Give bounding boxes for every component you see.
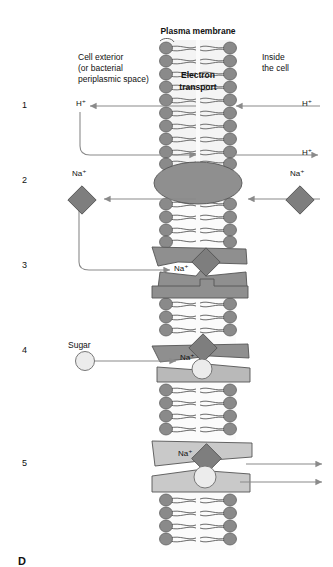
- sodium-label-step3: Na⁺: [174, 264, 188, 273]
- page-title: Plasma membrane: [160, 26, 236, 37]
- proton-label-interior: H⁺: [302, 99, 312, 108]
- exterior-label-line3: periplasmic space): [78, 74, 149, 85]
- proton-label-exterior: H⁺: [76, 99, 86, 108]
- sodium-proton-antiporter: [154, 162, 242, 204]
- sodium-diamond-exterior-step2: [68, 186, 96, 214]
- electron-transport-label-line2: transport: [160, 82, 236, 93]
- bilayer-segment-fourth: [160, 382, 237, 440]
- proton-label-exit: H⁺: [302, 148, 312, 157]
- interior-label-line1: Inside: [262, 52, 285, 63]
- sodium-diamond-interior-step2: [286, 186, 314, 214]
- step-number-3: 3: [22, 260, 27, 270]
- sugar-label: Sugar: [68, 340, 91, 351]
- sodium-label-interior: Na⁺: [290, 169, 304, 178]
- sodium-label-step5: Na⁺: [178, 449, 192, 458]
- exterior-label-line1: Cell exterior: [78, 52, 123, 63]
- sodium-label-step4: Na⁺: [180, 353, 194, 362]
- panel-letter-label: D: [18, 556, 26, 567]
- electron-transport-label-line1: Electron: [160, 70, 236, 81]
- sugar-circle-exterior: [76, 352, 95, 371]
- bilayer-segment-upper: [160, 38, 237, 170]
- step-number-4: 4: [22, 345, 27, 355]
- step-number-5: 5: [22, 458, 27, 468]
- sugar-circle-step5: [194, 466, 216, 488]
- step-number-1: 1: [22, 100, 27, 110]
- bilayer-segment-bottom: [160, 492, 237, 550]
- sugar-circle-step4: [192, 359, 212, 379]
- interior-label-line2: the cell: [262, 63, 289, 74]
- exterior-label-line2: (or bacterial: [78, 63, 123, 74]
- figure-canvas: Plasma membrane Cell exterior (or bacter…: [0, 0, 333, 567]
- sodium-label-exterior: Na⁺: [72, 169, 86, 178]
- step-number-2: 2: [22, 175, 27, 185]
